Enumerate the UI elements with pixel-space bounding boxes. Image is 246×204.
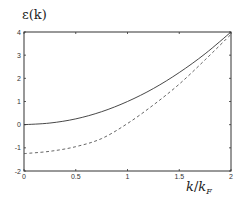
plot-area (24, 32, 231, 171)
x-tick-label: 0.5 (71, 173, 81, 180)
x-axis-label: k/kF (186, 179, 212, 196)
x-axis-label-kf: k (198, 179, 206, 194)
x-tick-label: 0 (22, 173, 26, 180)
y-tick-label: 1 (17, 98, 21, 105)
y-tick-label: 0 (17, 121, 21, 128)
x-tick-label: 1.5 (174, 173, 184, 180)
chart: 00.511.52-2-101234 ε(k) k/kF (0, 0, 246, 204)
y-tick-label: 2 (17, 75, 21, 82)
y-tick-label: -1 (15, 144, 21, 151)
y-tick-label: -2 (15, 168, 21, 175)
series-dashed-line (24, 34, 231, 153)
x-tick-label: 1 (126, 173, 130, 180)
x-tick-label: 2 (229, 173, 233, 180)
axis-ticks: 00.511.52-2-101234 (15, 29, 233, 181)
x-axis-label-k: k (186, 179, 194, 194)
y-tick-label: 3 (17, 52, 21, 59)
series-solid-line (24, 32, 231, 125)
y-axis-label: ε(k) (22, 7, 47, 22)
x-axis-label-sub: F (205, 187, 212, 196)
y-tick-label: 4 (17, 29, 21, 36)
